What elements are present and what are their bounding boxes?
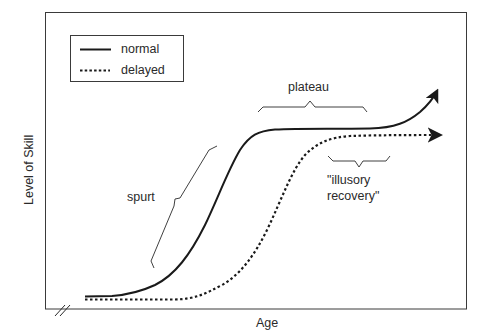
illusory-recovery-label-line1: "illusory: [327, 173, 371, 187]
illusory-recovery-brace: [328, 156, 390, 167]
x-axis-label: Age: [256, 316, 278, 330]
illusory-recovery-label-line2: recovery": [327, 189, 379, 203]
y-axis-label: Level of Skill: [22, 135, 36, 205]
axis-break-icon: [55, 305, 70, 316]
legend: normal delayed: [71, 36, 184, 82]
legend-label-normal: normal: [121, 42, 159, 56]
skill-development-diagram: normal delayed spurt plateau "illusory r…: [0, 0, 489, 335]
spurt-label: spurt: [127, 190, 155, 204]
plateau-brace: [258, 101, 367, 112]
legend-label-delayed: delayed: [121, 63, 165, 77]
plateau-label: plateau: [288, 80, 329, 94]
spurt-brace: [151, 146, 217, 268]
